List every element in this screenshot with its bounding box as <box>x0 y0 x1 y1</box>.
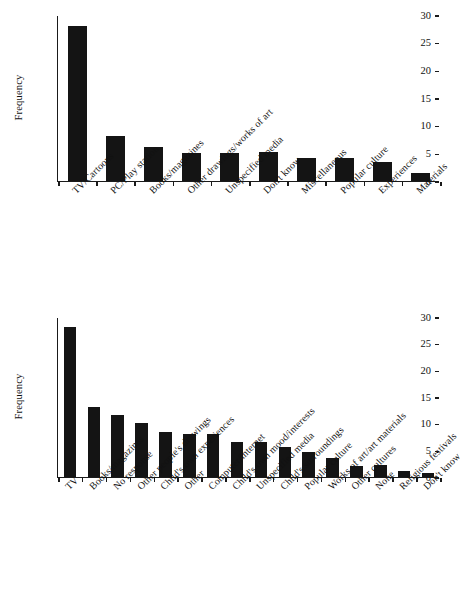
y-tick-label: 10 <box>421 121 436 132</box>
y-tick-label: 25 <box>421 339 436 350</box>
y-tick-mark <box>435 15 439 17</box>
y-tick-mark <box>435 154 439 156</box>
y-tick-mark <box>435 71 439 73</box>
y-axis-label-top: Frequency <box>13 63 24 133</box>
x-tick-mark <box>402 182 404 186</box>
y-tick-mark <box>435 371 439 373</box>
x-tick-mark <box>249 182 251 186</box>
bar <box>68 26 87 181</box>
x-tick-mark <box>440 182 442 186</box>
y-tick-label: 25 <box>421 38 436 49</box>
x-tick-mark <box>287 182 289 186</box>
x-tick-mark <box>173 182 175 186</box>
x-tick-mark <box>58 478 60 482</box>
y-tick-mark <box>435 43 439 45</box>
y-tick-label: 15 <box>421 392 436 403</box>
chart-top: Frequency 051015202530 TV/CartoonsPC/Pla… <box>0 0 455 300</box>
x-tick-mark <box>82 478 84 482</box>
y-tick-label: 20 <box>421 66 436 77</box>
y-tick-label: 10 <box>421 419 436 430</box>
y-tick-mark <box>435 317 439 319</box>
y-tick-label: 30 <box>421 312 436 323</box>
chart-bottom: Frequency 051015202530 TVBooks/magazines… <box>0 300 455 607</box>
y-tick-mark <box>435 126 439 128</box>
y-tick-mark <box>435 98 439 100</box>
x-tick-mark <box>364 182 366 186</box>
y-tick-mark <box>435 344 439 346</box>
x-tick-mark <box>211 182 213 186</box>
y-tick-label: 30 <box>421 10 436 21</box>
x-tick-mark <box>325 182 327 186</box>
y-tick-label: 15 <box>421 93 436 104</box>
y-tick-label: 5 <box>426 149 435 160</box>
y-tick-mark <box>435 397 439 399</box>
bar <box>88 407 100 477</box>
y-tick-label: 20 <box>421 366 436 377</box>
y-axis-label-bottom: Frequency <box>13 362 24 432</box>
x-tick-mark <box>96 182 98 186</box>
x-tick-mark <box>134 182 136 186</box>
y-tick-mark <box>435 424 439 426</box>
bar <box>64 327 76 477</box>
x-tick-mark <box>58 182 60 186</box>
